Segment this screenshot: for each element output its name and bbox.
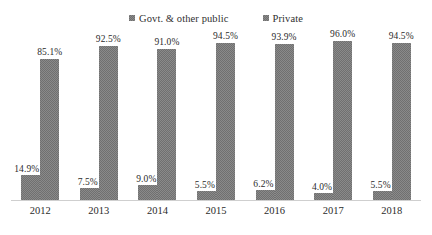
bar-label-govt: 9.0% bbox=[136, 174, 156, 184]
x-axis-baseline bbox=[11, 200, 421, 201]
bar-govt[interactable] bbox=[314, 193, 333, 200]
bar-group: 4.0%96.0% bbox=[314, 34, 352, 200]
bar-group: 7.5%92.5% bbox=[80, 34, 118, 200]
bar-label-govt: 14.9% bbox=[14, 164, 39, 174]
x-axis-tick-labels: 2012201320142015201620172018 bbox=[11, 204, 421, 222]
bar-group: 14.9%85.1% bbox=[21, 34, 59, 200]
bar-label-govt: 4.0% bbox=[312, 182, 332, 192]
bar-private[interactable] bbox=[99, 46, 118, 200]
x-tick-label: 2018 bbox=[381, 204, 402, 218]
bar-label-private: 96.0% bbox=[330, 29, 355, 39]
x-tick-label: 2015 bbox=[206, 204, 227, 218]
bar-label-govt: 5.5% bbox=[371, 180, 391, 190]
bar-private[interactable] bbox=[275, 44, 294, 200]
bar-label-private: 91.0% bbox=[154, 37, 179, 47]
legend-square-marker-icon bbox=[263, 15, 269, 21]
chart-legend: Govt. & other publicPrivate bbox=[0, 10, 432, 26]
bar-label-govt: 7.5% bbox=[78, 177, 98, 187]
bar-label-govt: 5.5% bbox=[195, 180, 215, 190]
bar-govt[interactable] bbox=[256, 190, 275, 200]
grouped-bar-chart: Govt. & other publicPrivate 14.9%85.1%7.… bbox=[0, 0, 432, 235]
x-tick-label: 2016 bbox=[264, 204, 285, 218]
bar-govt[interactable] bbox=[80, 188, 99, 200]
bar-private[interactable] bbox=[40, 59, 59, 200]
bar-govt[interactable] bbox=[197, 191, 216, 200]
bar-group: 6.2%93.9% bbox=[256, 34, 294, 200]
bar-group: 9.0%91.0% bbox=[138, 34, 176, 200]
bar-govt[interactable] bbox=[21, 175, 40, 200]
x-tick-label: 2017 bbox=[323, 204, 344, 218]
bar-label-private: 85.1% bbox=[37, 47, 62, 57]
bar-private[interactable] bbox=[333, 41, 352, 200]
bar-label-private: 94.5% bbox=[213, 31, 238, 41]
legend-entry-label: Govt. & other public bbox=[139, 13, 229, 24]
legend-entry-govt[interactable]: Govt. & other public bbox=[129, 13, 229, 24]
legend-entry-private[interactable]: Private bbox=[263, 13, 303, 24]
bar-group: 5.5%94.5% bbox=[373, 34, 411, 200]
bar-label-govt: 6.2% bbox=[253, 179, 273, 189]
legend-square-marker-icon bbox=[129, 15, 135, 21]
bar-govt[interactable] bbox=[373, 191, 392, 200]
x-tick-label: 2012 bbox=[30, 204, 51, 218]
bar-label-private: 93.9% bbox=[272, 32, 297, 42]
bar-label-private: 92.5% bbox=[96, 34, 121, 44]
plot-area: 14.9%85.1%7.5%92.5%9.0%91.0%5.5%94.5%6.2… bbox=[11, 34, 421, 200]
bar-group: 5.5%94.5% bbox=[197, 34, 235, 200]
bar-private[interactable] bbox=[216, 43, 235, 200]
x-tick-label: 2014 bbox=[147, 204, 168, 218]
bar-private[interactable] bbox=[157, 49, 176, 200]
bar-private[interactable] bbox=[392, 43, 411, 200]
bar-govt[interactable] bbox=[138, 185, 157, 200]
bar-label-private: 94.5% bbox=[389, 31, 414, 41]
x-tick-label: 2013 bbox=[88, 204, 109, 218]
legend-entry-label: Private bbox=[273, 13, 303, 24]
